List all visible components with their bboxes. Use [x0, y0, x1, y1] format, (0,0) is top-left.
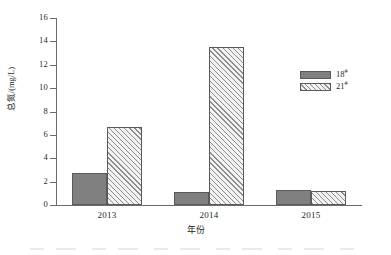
chart-legend: 18# 21#	[300, 69, 362, 93]
y-tick-label-wrap: 8	[20, 107, 48, 116]
legend-label-21: 21#	[336, 82, 348, 91]
legend-swatch-18	[300, 71, 331, 79]
x-tick-label-2015: 2015	[276, 210, 346, 221]
x-tick-label-2014: 2014	[174, 210, 244, 221]
bar-2013-21	[107, 127, 142, 205]
y-tick-label: 12	[24, 60, 48, 69]
y-tick-label: 2	[24, 177, 48, 186]
y-tick-label: 4	[24, 153, 48, 162]
legend-item-18: 18#	[300, 69, 362, 80]
y-tick-mark	[50, 205, 57, 206]
legend-item-21: 21#	[300, 81, 362, 92]
bar-2014-21	[209, 47, 244, 205]
scan-artifact	[30, 248, 360, 250]
bar-2015-18	[276, 190, 311, 205]
y-tick-label-wrap: 12	[20, 60, 48, 69]
x-axis-line	[56, 205, 362, 206]
y-axis-title: 总氮/(mg/L)	[6, 34, 16, 144]
legend-label-18: 18#	[336, 70, 348, 79]
y-tick-label: 14	[24, 36, 48, 45]
legend-swatch-21	[300, 83, 331, 91]
plot-area	[56, 18, 362, 205]
bar-2013-18	[72, 173, 107, 205]
x-tick-label-2013: 2013	[72, 210, 142, 221]
y-tick-label: 16	[24, 13, 48, 22]
y-tick-label-wrap: 6	[20, 130, 48, 139]
y-tick-label-wrap: 10	[20, 83, 48, 92]
y-tick-label: 0	[24, 200, 48, 209]
y-tick-label-wrap: 4	[20, 153, 48, 162]
y-tick-label-wrap: 0	[20, 200, 48, 209]
bar-chart: 总氮/(mg/L) 0246810121416 201320142015 年份 …	[0, 0, 391, 255]
y-tick-label: 8	[24, 107, 48, 116]
y-tick-label: 10	[24, 83, 48, 92]
y-tick-label-wrap: 14	[20, 36, 48, 45]
bars-layer	[56, 18, 362, 205]
y-tick-label-wrap: 16	[20, 13, 48, 22]
x-axis-title: 年份	[0, 225, 391, 236]
bar-2014-18	[174, 192, 209, 205]
y-tick-label-wrap: 2	[20, 177, 48, 186]
y-tick-label: 6	[24, 130, 48, 139]
bar-2015-21	[311, 191, 346, 205]
